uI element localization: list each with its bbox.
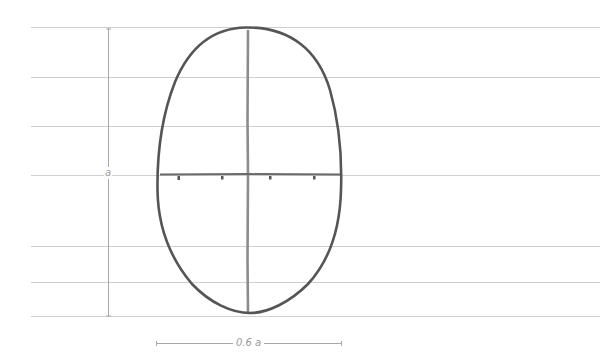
tick-marks [178,176,316,180]
face-oval-diagram [0,0,604,364]
tick-mark [178,176,181,180]
face-oval-outline [157,27,341,313]
width-label: 0.6 a [233,337,264,349]
tick-mark [269,176,272,180]
vertical-center-axis [248,31,249,313]
tick-mark [313,176,316,180]
height-label: a [104,167,112,179]
tick-mark [221,176,224,180]
horizontal-eye-axis [160,174,341,175]
